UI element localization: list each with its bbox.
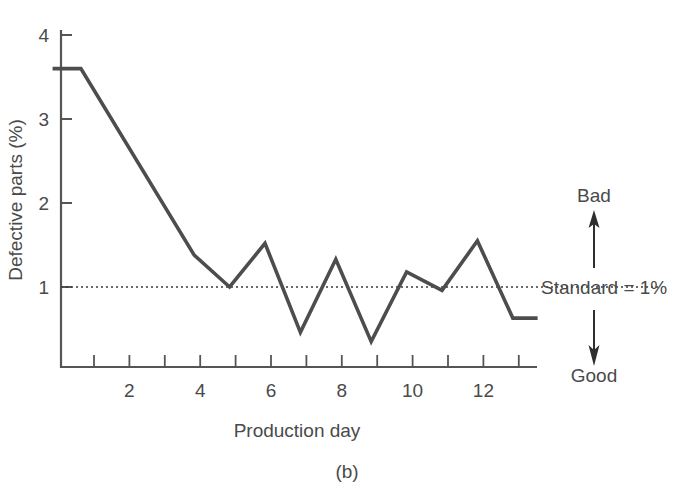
y-tick-label: 3 [38,109,49,130]
defective-parts-line-chart: 1234 24681012 Defective parts (%) Produc… [0,0,693,483]
x-tick-label: 12 [473,380,494,401]
y-tick-label: 2 [38,193,49,214]
x-tick-label: 6 [266,380,277,401]
standard-reference-label: Standard = 1% [541,277,667,298]
x-tick-label: 8 [337,380,348,401]
y-axis-title: Defective parts (%) [5,119,26,281]
x-axis-title: Production day [234,420,361,441]
chart-background [0,0,693,483]
x-tick-label: 2 [124,380,135,401]
y-tick-label: 1 [38,277,49,298]
figure-caption: (b) [335,461,358,482]
x-tick-label: 10 [402,380,423,401]
chart-figure: 1234 24681012 Defective parts (%) Produc… [0,0,693,483]
x-tick-label: 4 [195,380,206,401]
y-tick-label: 4 [38,25,49,46]
bad-direction-label: Bad [577,185,611,206]
good-direction-label: Good [571,365,617,386]
